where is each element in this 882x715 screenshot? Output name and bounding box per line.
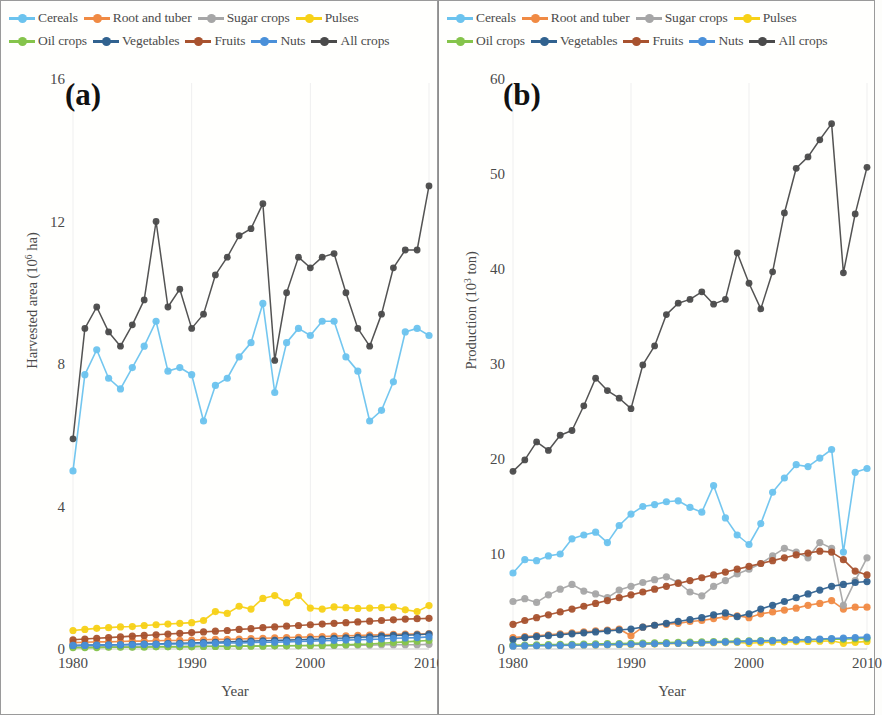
x-axis-tick: 1990 <box>616 655 646 672</box>
series-all-crops <box>70 182 433 442</box>
x-axis-tick: 2000 <box>295 655 325 672</box>
y-axis-tick: 12 <box>27 213 65 230</box>
series-cereals <box>69 300 432 475</box>
x-axis-tick: 1990 <box>177 655 207 672</box>
y-axis-tick: 20 <box>467 451 505 468</box>
y-axis-tick: 50 <box>467 166 505 183</box>
x-axis-tick: 1980 <box>58 655 88 672</box>
x-axis-label-a: Year <box>35 683 435 700</box>
y-axis-tick: 30 <box>467 356 505 373</box>
x-axis-label-b: Year <box>473 683 871 700</box>
x-axis-tick: 1980 <box>498 655 528 672</box>
y-axis-tick: 4 <box>27 498 65 515</box>
plot-area-b: (b) Production (103 ton) Year 0102030405… <box>439 1 874 714</box>
y-axis-label-b: Production (103 ton) <box>462 205 481 415</box>
y-axis-tick: 10 <box>467 546 505 563</box>
x-axis-tick: 2010 <box>852 655 882 672</box>
series-all-crops <box>510 120 871 475</box>
series-cereals <box>509 446 870 577</box>
plot-area-a: (a) Harvested area (106 ha) Year 0481216… <box>1 1 437 714</box>
y-axis-tick: 60 <box>467 71 505 88</box>
x-axis-tick: 2000 <box>734 655 764 672</box>
y-axis-tick: 16 <box>27 71 65 88</box>
y-axis-tick: 40 <box>467 261 505 278</box>
panel-a: Cereals Root and tuber Sugar crops <box>0 0 438 715</box>
y-axis-tick: 8 <box>27 356 65 373</box>
panel-b: Cereals Root and tuber Sugar crops <box>438 0 875 715</box>
panel-letter-a: (a) <box>65 77 101 113</box>
panel-letter-b: (b) <box>503 77 541 113</box>
